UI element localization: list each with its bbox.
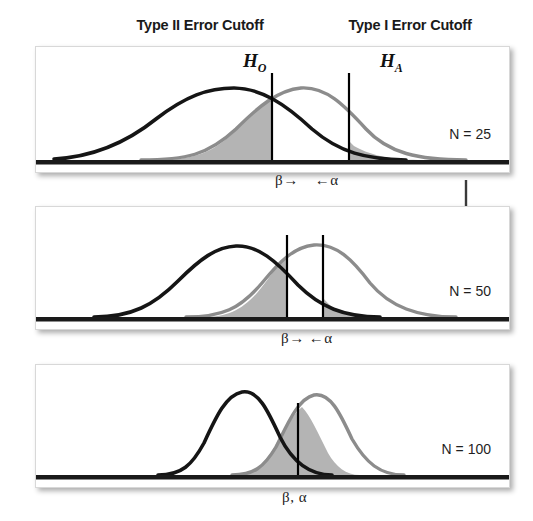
error-cutoff-figure: Type II Error Cutoff Type I Error Cutoff xyxy=(0,0,533,521)
alpha-annotation-n50: ←α xyxy=(309,330,333,346)
beta-shaded-region xyxy=(204,246,298,317)
type-1-error-cutoff-title: Type I Error Cutoff xyxy=(320,17,500,33)
type-2-error-cutoff-title: Type II Error Cutoff xyxy=(90,17,310,33)
error-annotations-n50: β→←α xyxy=(281,330,333,347)
panel-n25: N = 25 xyxy=(35,46,510,173)
null-hypothesis-letter: H xyxy=(243,50,258,71)
alpha-annotation-n25: ←α xyxy=(315,172,339,188)
baseline-axis xyxy=(36,160,509,165)
alt-hypothesis-subscript: A xyxy=(395,61,403,75)
panel-n50: N = 50 xyxy=(35,206,510,330)
sample-size-label-n50: N = 50 xyxy=(449,283,491,299)
baseline-axis xyxy=(36,475,509,480)
panel-n25-plot xyxy=(36,47,509,172)
panel-n100-plot xyxy=(36,365,509,487)
alt-hypothesis-label: HA xyxy=(380,50,403,76)
beta-annotation-n50: β→ xyxy=(281,330,305,346)
combined-error-annotation-n100: β, α xyxy=(282,489,307,506)
beta-shaded-region xyxy=(156,88,306,160)
panel-n50-plot xyxy=(36,207,509,329)
null-hypothesis-label: HO xyxy=(243,50,266,76)
null-hypothesis-subscript: O xyxy=(258,61,267,75)
alt-hypothesis-letter: H xyxy=(380,50,395,71)
sample-size-label-n100: N = 100 xyxy=(442,441,491,457)
alpha-shaded-region xyxy=(294,89,424,160)
sample-size-label-n25: N = 25 xyxy=(449,126,491,142)
alt-hypothesis-curve xyxy=(186,245,456,317)
panel-n100: N = 100 xyxy=(35,364,510,488)
baseline-axis xyxy=(36,317,509,322)
error-annotations-n25: β→←α xyxy=(275,172,339,189)
beta-annotation-n25: β→ xyxy=(275,172,299,188)
